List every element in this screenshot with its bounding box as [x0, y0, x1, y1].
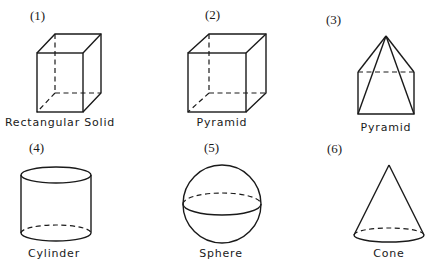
shape-number-6: (6): [327, 141, 342, 156]
cube-icon: [188, 34, 266, 112]
shape-number-3: (3): [326, 12, 341, 27]
shape-label-sphere: Sphere: [199, 247, 243, 260]
shape-number-5: (5): [204, 140, 219, 155]
shape-number-1: (1): [30, 8, 45, 23]
shape-label-cone: Cone: [373, 247, 404, 260]
shape-label-cube: Pyramid: [197, 116, 248, 129]
shape-number-2: (2): [205, 7, 220, 22]
cylinder-icon: [21, 167, 91, 241]
cylinder-group: (4) Cylinder: [21, 140, 91, 260]
rectangular-solid-icon: [37, 34, 101, 112]
shape-label-pyramid: Pyramid: [361, 121, 412, 134]
cone-group: (6) Cone: [327, 141, 424, 260]
shape-number-4: (4): [29, 140, 44, 155]
sphere-group: (5) Sphere: [183, 140, 261, 260]
pyramid-icon: [358, 36, 414, 114]
sphere-icon: [183, 165, 261, 243]
pyramid-group: (3) Pyramid: [326, 12, 414, 134]
geometric-solids-figure: (1) Rectangular Solid (2) Pyramid (3): [0, 0, 430, 266]
cone-icon: [354, 165, 424, 242]
shape-label-cylinder: Cylinder: [28, 247, 80, 260]
cube-group: (2) Pyramid: [188, 7, 266, 129]
shape-label-rectangular-solid: Rectangular Solid: [5, 116, 115, 129]
rectangular-solid-group: (1) Rectangular Solid: [5, 8, 115, 129]
